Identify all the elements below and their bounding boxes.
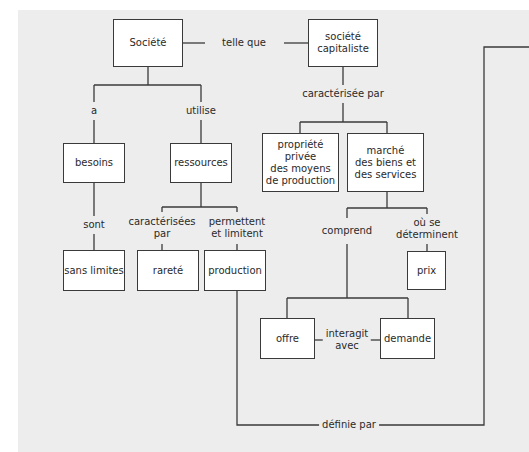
node-sans-limites: sans limites [63, 250, 125, 291]
node-societe-capitaliste: société capitaliste [308, 19, 378, 67]
link-ou-se-determinent: où se déterminent [393, 217, 461, 241]
node-offre: offre [260, 318, 315, 359]
node-production: production [204, 250, 266, 291]
link-permettent-et-limitent: permettent et limitent [206, 216, 269, 240]
node-societe: Société [113, 19, 183, 67]
node-prix: prix [407, 251, 446, 290]
link-interagit-avec: interagit avec [323, 328, 371, 352]
node-besoins: besoins [63, 143, 125, 183]
link-comprend: comprend [319, 225, 375, 237]
link-sont: sont [80, 219, 108, 231]
node-marche: marché des biens et des services [347, 133, 424, 192]
link-a: a [88, 105, 100, 117]
link-caracterisees-par: caractérisées par [125, 216, 198, 240]
node-demande: demande [380, 318, 435, 359]
node-ressources: ressources [170, 143, 232, 183]
link-telle-que: telle que [219, 37, 269, 49]
node-propriete-privee: propriété privée des moyens de productio… [262, 133, 339, 192]
link-definie-par: définie par [319, 419, 379, 431]
link-utilise: utilise [183, 105, 219, 117]
link-caracterisee-par: caractérisée par [299, 88, 387, 100]
node-rarete: rareté [137, 250, 199, 291]
